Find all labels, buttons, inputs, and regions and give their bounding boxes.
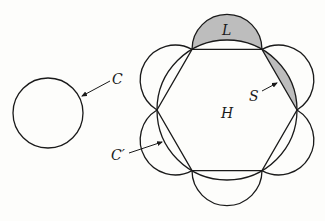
label-H: H	[221, 106, 233, 120]
arrow-C	[82, 81, 110, 96]
arrow-S	[262, 83, 277, 91]
figure-canvas: C C′ L S H	[0, 0, 325, 221]
arrow-C-prime	[129, 142, 162, 153]
label-L: L	[222, 23, 231, 37]
label-C-prime: C′	[111, 148, 125, 162]
label-S: S	[249, 89, 259, 103]
geometry-diagram	[0, 0, 325, 221]
circle-C	[13, 78, 83, 148]
label-C: C	[112, 72, 123, 86]
